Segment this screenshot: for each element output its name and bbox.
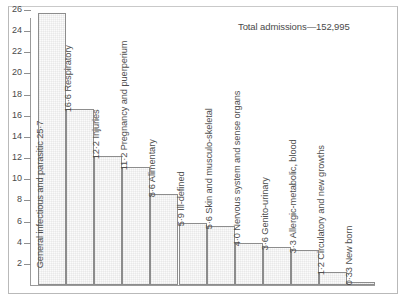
- bar-label: General infectious and parasitic 25·7: [36, 121, 45, 269]
- bar-label: 1·2 Circulatory and new growths: [317, 145, 326, 275]
- bar-label: 11·2 Pregnancy and puerperium: [120, 40, 129, 170]
- chart-root: 2624222018161412108642 General infectiou…: [0, 0, 408, 300]
- bar-series: General infectious and parasitic 25·716·…: [0, 0, 408, 300]
- total-admissions-annotation: Total admissions—152,995: [238, 22, 350, 32]
- bar: [150, 194, 178, 285]
- bar-label: 8·6 Alimentary: [148, 139, 157, 197]
- bar-label: 0·33 New born: [345, 225, 354, 285]
- bar-label: 16·6 Respiratory: [64, 46, 73, 113]
- bar-label: 12·2 Injuries: [92, 109, 101, 159]
- plot-area: 2624222018161412108642 General infectiou…: [0, 0, 408, 300]
- bar-label: 5·9 Ill-defined: [176, 171, 185, 226]
- bar-label: 3·3 Allergic-metabolic, blood: [289, 139, 298, 253]
- bar: [263, 247, 291, 285]
- bar: [207, 226, 235, 285]
- bar-label: 5·6 Skin and musculo-skeletal: [204, 108, 213, 229]
- bar-label: 4·0 Nervous system and sense organs: [232, 90, 241, 246]
- bar-label: 3·6 Genito-urinary: [261, 177, 270, 250]
- bar: [235, 243, 263, 285]
- bar: [179, 223, 207, 285]
- bar: [94, 156, 122, 285]
